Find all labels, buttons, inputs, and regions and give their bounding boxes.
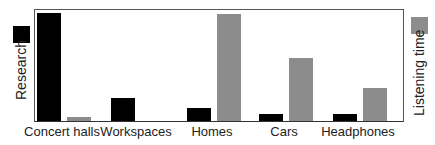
axis-label-research: Research (13, 40, 29, 100)
bar-listening-time-homes (217, 14, 241, 121)
plot-area (34, 9, 404, 122)
bar-research-concert-halls (37, 13, 61, 121)
bar-research-headphones (333, 114, 357, 121)
x-tick-label: Headphones (308, 124, 408, 139)
bar-research-homes (187, 108, 211, 121)
bar-research-cars (259, 114, 283, 121)
bar-listening-time-concert-halls (67, 117, 91, 121)
bar-research-workspaces (111, 98, 135, 121)
axis-label-listening-time: Listening time (411, 30, 427, 116)
bar-listening-time-headphones (363, 88, 387, 121)
bar-listening-time-cars (289, 58, 313, 121)
